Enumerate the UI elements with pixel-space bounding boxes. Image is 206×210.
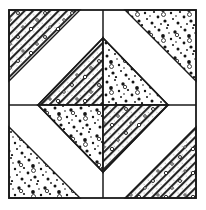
quilt-block-figure (0, 0, 206, 210)
quilt-block-diagram (0, 0, 206, 210)
